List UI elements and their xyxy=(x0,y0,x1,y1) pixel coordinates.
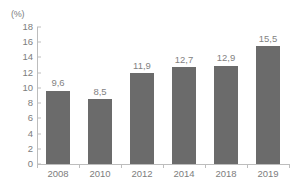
x-axis-tick-mark xyxy=(37,164,38,168)
y-axis-tick-label: 2 xyxy=(28,144,33,154)
y-axis-tick-label: 18 xyxy=(22,22,33,32)
y-axis-tick-label: 8 xyxy=(28,98,33,108)
bar-value-label: 11,9 xyxy=(133,61,151,71)
bar-group[interactable]: 15,5 xyxy=(256,27,279,164)
bar-group[interactable]: 12,7 xyxy=(172,27,195,164)
plot-area: 024681012141618 9,68,511,912,712,915,5 xyxy=(37,27,289,164)
x-axis-tick-mark xyxy=(289,164,290,168)
y-axis-tick-label: 16 xyxy=(22,37,33,47)
x-axis-tick-label: 2010 xyxy=(89,169,110,179)
bar[interactable] xyxy=(256,46,279,164)
x-axis-tick-label: 2012 xyxy=(131,169,152,179)
y-axis-tick-label: 12 xyxy=(22,68,33,78)
x-axis-tick-label: 2019 xyxy=(257,169,278,179)
x-axis-tick-mark xyxy=(205,164,206,168)
bar-group[interactable]: 8,5 xyxy=(88,27,111,164)
x-axis-tick-mark xyxy=(163,164,164,168)
bar[interactable] xyxy=(88,99,111,164)
y-axis-tick-label: 14 xyxy=(22,53,33,63)
bar-value-label: 12,7 xyxy=(175,55,194,65)
bar[interactable] xyxy=(130,73,153,164)
x-axis-tick-mark xyxy=(247,164,248,168)
y-axis-tick-label: 4 xyxy=(28,129,33,139)
x-axis-tick-label: 2014 xyxy=(173,169,194,179)
bar-value-label: 8,5 xyxy=(93,87,106,97)
x-axis-tick-label: 2018 xyxy=(215,169,236,179)
bar[interactable] xyxy=(214,66,237,164)
y-axis-tick-label: 0 xyxy=(28,159,33,169)
bar[interactable] xyxy=(46,91,69,164)
bar-group[interactable]: 12,9 xyxy=(214,27,237,164)
y-axis-unit-label: (%) xyxy=(11,9,24,19)
bar-value-label: 15,5 xyxy=(259,34,278,44)
y-axis-tick-label: 10 xyxy=(22,83,33,93)
bars-layer: 9,68,511,912,712,915,5 xyxy=(37,27,289,164)
bar-chart: (%) 024681012141618 9,68,511,912,712,915… xyxy=(0,0,295,189)
bar-value-label: 12,9 xyxy=(217,53,236,63)
bar-group[interactable]: 11,9 xyxy=(130,27,153,164)
bar[interactable] xyxy=(172,67,195,164)
bar-group[interactable]: 9,6 xyxy=(46,27,69,164)
y-axis-tick-label: 6 xyxy=(28,114,33,124)
x-axis-tick-label: 2008 xyxy=(47,169,68,179)
x-axis-tick-mark xyxy=(79,164,80,168)
x-axis-tick-mark xyxy=(121,164,122,168)
bar-value-label: 9,6 xyxy=(51,78,64,88)
